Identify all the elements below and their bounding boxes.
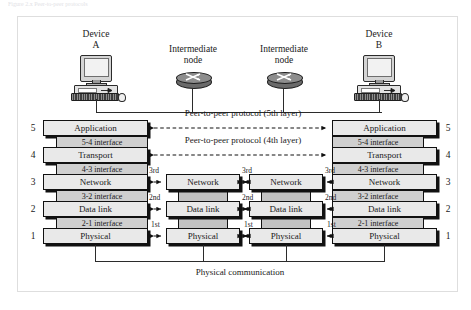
figure-frame: Device A Intermediate node: [17, 16, 458, 292]
monitor-icon: [80, 55, 112, 82]
physical-communication-label: Physical communication: [150, 267, 330, 277]
connector-bar-datalink-physical-node2: [261, 217, 311, 228]
mouse-icon: [401, 93, 409, 102]
monitor-icon: [363, 55, 395, 82]
device-a-drop: [96, 99, 97, 113]
layer-box-physical-node2[interactable]: Physical: [249, 228, 323, 244]
desktop-computer-icon: [69, 55, 123, 99]
figure-caption: Figure 2.x Peer-to-peer protocols: [8, 1, 258, 10]
hop-label-3rd-a: 3rd: [149, 167, 159, 175]
keyboard-icon: [71, 93, 119, 101]
layer-box-datalink-node1[interactable]: Data link: [166, 201, 240, 217]
cursor-arrow-icon: [101, 88, 114, 93]
layer-box-physical-left[interactable]: Physical: [43, 228, 148, 244]
layer-box-transport-right[interactable]: Transport: [332, 147, 437, 163]
device-b-label: Device: [349, 29, 409, 40]
peer-protocol-label-5: Peer-to-peer protocol (5th layer): [153, 108, 333, 118]
hop-label-1st-c: 1st: [327, 221, 336, 229]
peer-protocol-label-4: Peer-to-peer protocol (4th layer): [153, 135, 333, 145]
connector-bar-network-datalink-node2: [261, 190, 311, 201]
monitor-screen: [84, 58, 109, 77]
layer-number-3-left: 3: [28, 177, 38, 187]
router-arrows-icon: [275, 72, 293, 82]
connector-bar-network-datalink-node1: [178, 190, 228, 201]
layer-number-2-right: 2: [443, 204, 453, 214]
hop-label-1st-b: 1st: [244, 221, 253, 229]
layer-box-application-right[interactable]: Application: [332, 120, 437, 136]
hop-label-3rd-c: 3rd: [325, 167, 335, 175]
phys-drop-left: [95, 245, 96, 262]
phys-drop-node2: [286, 245, 287, 262]
layer-box-network-left[interactable]: Network: [43, 174, 148, 190]
hop-label-2nd-c: 2nd: [325, 194, 336, 202]
desktop-computer-icon: [352, 55, 406, 99]
layer-box-datalink-left[interactable]: Data link: [43, 201, 148, 217]
layer-number-1-right: 1: [443, 231, 453, 241]
layer-number-3-right: 3: [443, 177, 453, 187]
hop-label-2nd-a: 2nd: [149, 194, 160, 202]
layer-number-4-left: 4: [28, 150, 38, 160]
layer-box-physical-node1[interactable]: Physical: [166, 228, 240, 244]
device-a-label-sub: A: [66, 40, 126, 51]
router-icon: [176, 72, 210, 89]
layer-number-5-left: 5: [28, 123, 38, 133]
monitor-screen: [367, 58, 392, 77]
figure-root: Figure 2.x Peer-to-peer protocols Device…: [0, 0, 471, 310]
layer-box-network-right[interactable]: Network: [332, 174, 437, 190]
layer-box-physical-right[interactable]: Physical: [332, 228, 437, 244]
physical-bus-line: [95, 261, 385, 262]
router-arrows-icon: [184, 72, 202, 82]
device-b-label-sub: B: [349, 40, 409, 51]
hop-label-3rd-b: 3rd: [242, 167, 252, 175]
layer-number-5-right: 5: [443, 123, 453, 133]
layer-box-datalink-right[interactable]: Data link: [332, 201, 437, 217]
cursor-arrow-icon: [384, 88, 397, 93]
layer-number-4-right: 4: [443, 150, 453, 160]
device-a-label: Device: [66, 29, 126, 40]
router-icon: [267, 72, 301, 89]
layer-box-application-left[interactable]: Application: [43, 120, 148, 136]
intermediate-node-1-label: Intermediate: [153, 44, 233, 55]
layer-box-network-node2[interactable]: Network: [249, 174, 323, 190]
intermediate-node-1-label-sub: node: [153, 55, 233, 66]
layer-number-2-left: 2: [28, 204, 38, 214]
layer-number-1-left: 1: [28, 231, 38, 241]
keyboard-icon: [354, 93, 402, 101]
connector-bar-datalink-physical-node1: [178, 217, 228, 228]
layer-box-network-node1[interactable]: Network: [166, 174, 240, 190]
phys-drop-right: [384, 245, 385, 262]
hop-label-1st-a: 1st: [151, 221, 160, 229]
layer-box-datalink-node2[interactable]: Data link: [249, 201, 323, 217]
mouse-icon: [118, 93, 126, 102]
layer-box-transport-left[interactable]: Transport: [43, 147, 148, 163]
device-b-drop: [379, 99, 380, 113]
phys-drop-node1: [203, 245, 204, 262]
intermediate-node-2-label: Intermediate: [244, 44, 324, 55]
intermediate-node-2-label-sub: node: [244, 55, 324, 66]
hop-label-2nd-b: 2nd: [242, 194, 253, 202]
